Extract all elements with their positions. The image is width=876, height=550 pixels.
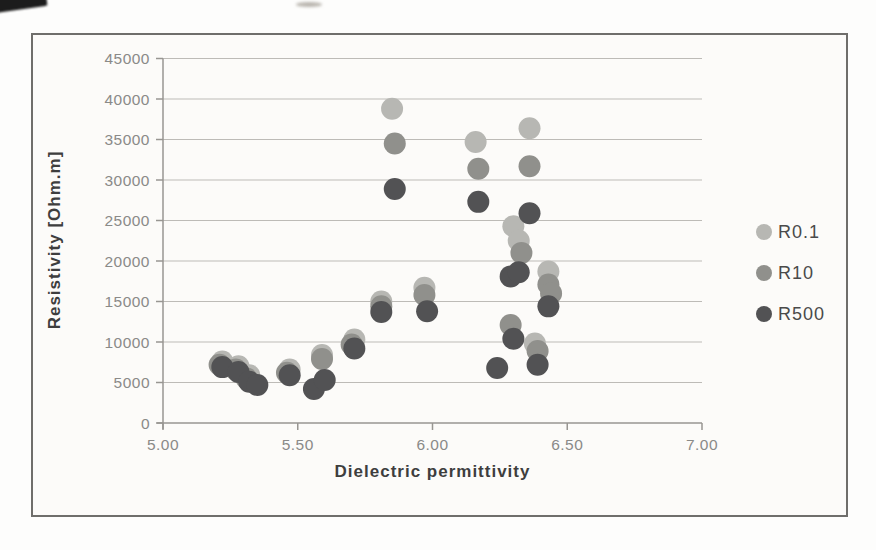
data-point-R10 [384, 133, 406, 155]
data-point-R500 [279, 364, 301, 386]
data-point-R500 [384, 178, 406, 200]
x-tick-label: 6.00 [416, 436, 448, 453]
data-point-R500 [467, 191, 489, 213]
data-point-R500 [508, 261, 530, 283]
data-point-R500 [416, 300, 438, 322]
y-tick-label: 30000 [104, 172, 150, 189]
legend-label-R0.1: R0.1 [778, 222, 820, 242]
data-point-R500 [370, 301, 392, 323]
y-tick-label: 20000 [104, 253, 150, 270]
data-point-R10 [311, 348, 333, 370]
legend-marker-R500 [756, 306, 772, 322]
x-tick-label: 5.00 [147, 436, 179, 453]
y-tick-label: 40000 [104, 91, 150, 108]
data-point-R500 [314, 369, 336, 391]
data-point-R0.1 [519, 117, 541, 139]
y-tick-label: 35000 [104, 131, 150, 148]
data-point-R10 [510, 242, 532, 264]
y-tick-label: 25000 [104, 212, 150, 229]
x-axis-title: Dielectric permittivity [163, 462, 702, 482]
legend-marker-R10 [756, 265, 772, 281]
data-point-R500 [486, 357, 508, 379]
x-tick-label: 6.50 [551, 436, 583, 453]
photographed-chart-page: 0500010000150002000025000300003500040000… [0, 0, 876, 550]
legend-marker-R0.1 [756, 224, 772, 240]
data-point-R500 [527, 354, 549, 376]
data-point-R0.1 [381, 98, 403, 120]
x-tick-label: 5.50 [282, 436, 314, 453]
data-point-R10 [519, 155, 541, 177]
legend-label-R500: R500 [778, 304, 825, 324]
legend-label-R10: R10 [778, 263, 814, 283]
data-point-R500 [537, 295, 559, 317]
data-point-R500 [502, 328, 524, 350]
y-tick-label: 45000 [104, 50, 150, 67]
data-point-R10 [467, 158, 489, 180]
y-tick-label: 15000 [104, 293, 150, 310]
x-tick-label: 7.00 [686, 436, 718, 453]
y-tick-label: 5000 [114, 374, 150, 391]
data-point-R500 [519, 202, 541, 224]
data-point-R500 [246, 374, 268, 396]
y-tick-label: 0 [141, 415, 150, 432]
y-tick-label: 10000 [104, 334, 150, 351]
y-axis-title: Resistivity [Ohm.m] [45, 120, 69, 360]
data-point-R0.1 [465, 131, 487, 153]
data-point-R500 [343, 337, 365, 359]
